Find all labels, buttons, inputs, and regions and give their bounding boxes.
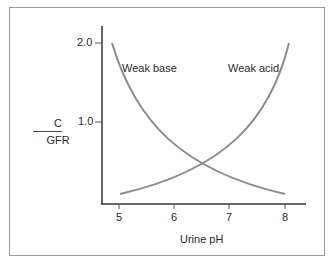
x-tick-label-6: 6 — [171, 211, 177, 223]
y-label-fraction-bar — [33, 131, 62, 132]
weak-base-label: Weak base — [122, 62, 177, 74]
y-tick-label-1: 1.0 — [78, 115, 93, 127]
x-tick-label-5: 5 — [116, 211, 122, 223]
y-tick-label-2: 2.0 — [77, 36, 92, 48]
y-label-denominator: GFR — [28, 134, 88, 146]
x-tick-label-8: 8 — [282, 211, 288, 223]
weak-acid-label: Weak acid — [228, 62, 279, 74]
x-tick-label-7: 7 — [226, 211, 232, 223]
x-axis-label: Urine pH — [180, 233, 223, 245]
